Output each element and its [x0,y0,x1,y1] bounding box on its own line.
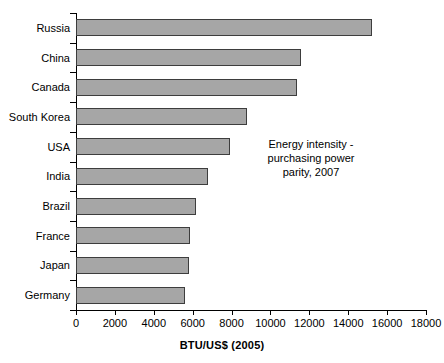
x-axis-tick [309,310,310,315]
bar [76,257,189,274]
y-axis-category-label: Russia [36,22,70,34]
y-axis-tick [70,280,76,281]
x-axis-tick [232,310,233,315]
x-axis-line [76,310,426,311]
y-axis-tick [70,251,76,252]
y-axis-tick [70,72,76,73]
bar-chart: RussiaChinaCanadaSouth KoreaUSAIndiaBraz… [0,0,444,363]
x-axis-title: BTU/US$ (2005) [0,339,444,351]
x-axis-tick-label: 14000 [333,317,364,329]
y-axis-tick [70,102,76,103]
y-axis-tick [70,132,76,133]
y-axis-category-label: Canada [31,81,70,93]
annotation-line-1: Energy intensity - [236,137,386,151]
x-axis-tick [115,310,116,315]
y-axis-tick [70,43,76,44]
bar [76,198,196,215]
bar [76,227,190,244]
x-axis-tick-label: 8000 [219,317,243,329]
bar [76,108,247,125]
y-axis-category-label: Brazil [42,200,70,212]
x-axis-tick [387,310,388,315]
annotation-line-3: parity, 2007 [236,165,386,179]
y-axis-category-label: USA [47,141,70,153]
x-axis-tick-label: 0 [73,317,79,329]
bar [76,168,208,185]
y-axis-category-label: Japan [40,259,70,271]
x-axis-tick [76,310,77,315]
x-axis-tick [154,310,155,315]
x-axis-tick-label: 6000 [180,317,204,329]
x-axis-tick [426,310,427,315]
y-axis-category-label: South Korea [9,111,70,123]
bar [76,19,372,36]
y-axis-tick [70,191,76,192]
x-axis-tick [270,310,271,315]
y-axis-category-label: France [36,230,70,242]
x-axis-tick-label: 4000 [142,317,166,329]
x-axis-tick-label: 10000 [255,317,286,329]
x-axis-tick-label: 16000 [372,317,403,329]
y-axis-tick [70,221,76,222]
x-axis-tick-label: 18000 [411,317,442,329]
bar [76,287,185,304]
bar [76,49,301,66]
x-axis-tick [193,310,194,315]
annotation-line-2: purchasing power [236,151,386,165]
y-axis-tick [70,13,76,14]
x-axis-tick-label: 2000 [103,317,127,329]
y-axis-category-label: China [41,52,70,64]
chart-annotation: Energy intensity - purchasing power pari… [236,137,386,179]
x-axis-tick [348,310,349,315]
y-axis-category-label: Germany [25,289,70,301]
x-axis-tick-label: 12000 [294,317,325,329]
bar [76,138,230,155]
bar [76,79,297,96]
y-axis-category-label: India [46,170,70,182]
y-axis-tick [70,162,76,163]
